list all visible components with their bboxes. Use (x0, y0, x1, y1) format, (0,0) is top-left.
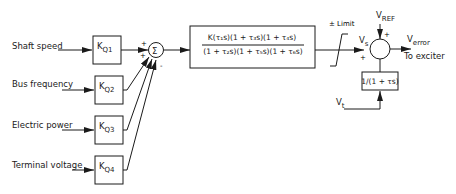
svg-text:Σ: Σ (152, 46, 157, 56)
summing-junction-2 (370, 39, 390, 59)
gain-block-kq4: KQ4 (95, 156, 123, 184)
kq2-to-summer (123, 57, 149, 90)
vt-arrow (344, 91, 380, 109)
svg-text:1/(1 + τs): 1/(1 + τs) (361, 77, 398, 86)
vs-sign: + (360, 54, 366, 62)
svg-text:± Limit: ± Limit (329, 20, 355, 28)
feedback-block: 1/(1 + τs) (361, 72, 398, 90)
input-label-terminal-voltage: Terminal voltage (11, 160, 82, 170)
vref-sign: + (384, 31, 390, 39)
input-label-bus-frequency: Bus frequency (12, 79, 73, 89)
kq4-to-summer (123, 60, 156, 170)
kq3-to-summer (123, 59, 152, 130)
sign-q2: + (140, 52, 146, 60)
vt-label: Vt (336, 97, 345, 110)
tf-denominator: (1 + τ₂s)(1 + τ₅s)(1 + τ₆s) (203, 47, 302, 56)
to-exciter-label: To exciter (403, 51, 445, 61)
vs-label: Vs (359, 35, 369, 48)
summing-junction-1: Σ (149, 43, 164, 58)
tf-numerator: K(τ₁s)(1 + τ₃s)(1 + τ₄s) (208, 33, 296, 42)
input-label-electric-power: Electric power (12, 120, 73, 130)
transfer-function-block: K(τ₁s)(1 + τ₃s)(1 + τ₄s) (1 + τ₂s)(1 + τ… (190, 26, 315, 68)
limiter: ± Limit (329, 20, 355, 66)
sign-q4: - (160, 62, 163, 70)
gain-block-kq3: KQ3 (95, 116, 123, 144)
gain-block-kq2: KQ2 (95, 76, 123, 104)
gain-block-kq1: KQ1 (93, 36, 121, 64)
verror-label: Verror (407, 34, 430, 47)
sign-q1: + (141, 40, 147, 48)
input-label-shaft-speed: Shaft speed (12, 41, 63, 51)
vref-label: VREF (376, 10, 395, 23)
